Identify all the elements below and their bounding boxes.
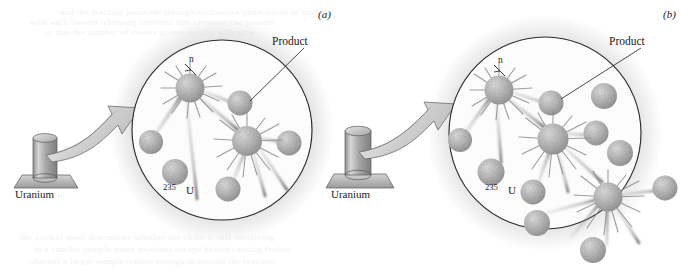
fissioning-nucleus bbox=[538, 124, 569, 155]
panel-a-isotope-mass-number: 235 bbox=[163, 182, 176, 192]
fissioning-nucleus bbox=[176, 74, 205, 103]
nucleus bbox=[448, 128, 472, 152]
fission-chain-reaction-figure: (a) Product n 235 U Uranium bbox=[0, 0, 693, 270]
nucleus bbox=[580, 237, 606, 263]
panel-b-isotope-mass-number: 235 bbox=[485, 182, 498, 192]
fissioning-nucleus bbox=[485, 76, 514, 105]
panel-a-uranium-source bbox=[14, 134, 78, 188]
panel-a-label: (a) bbox=[318, 8, 331, 21]
uranium-cylinder-top-b bbox=[345, 126, 371, 136]
fissioning-nucleus bbox=[594, 183, 623, 212]
nucleus bbox=[524, 210, 550, 236]
nucleus bbox=[139, 130, 163, 154]
nucleus bbox=[584, 121, 609, 146]
nucleus bbox=[216, 177, 241, 202]
panel-b: (b) Product n 235 U Uranium bbox=[326, 8, 678, 263]
nucleus-escaping bbox=[653, 176, 678, 201]
panel-b-product-label: Product bbox=[609, 35, 646, 47]
panel-b-isotope-symbol: U bbox=[508, 184, 516, 196]
fissioning-nucleus bbox=[232, 126, 262, 156]
panel-b-neutron-label: n bbox=[498, 55, 503, 65]
panel-b-uranium-label: Uranium bbox=[331, 188, 371, 200]
panel-b-uranium-source bbox=[326, 126, 394, 188]
panel-a-isotope-symbol: U bbox=[186, 184, 194, 196]
nucleus bbox=[277, 131, 302, 156]
panel-a: (a) Product n 235 U Uranium bbox=[14, 8, 334, 242]
nucleus bbox=[521, 180, 546, 205]
uranium-base-b bbox=[326, 174, 394, 188]
nucleus bbox=[591, 83, 617, 109]
panel-b-label: (b) bbox=[663, 8, 676, 21]
panel-a-uranium-label: Uranium bbox=[15, 188, 55, 200]
nucleus bbox=[228, 91, 253, 116]
nucleus bbox=[539, 91, 564, 116]
nucleus bbox=[607, 140, 633, 166]
uranium-cylinder-top-a bbox=[33, 134, 57, 143]
panel-a-neutron-label: n bbox=[189, 54, 194, 64]
panel-a-product-label: Product bbox=[272, 35, 309, 47]
